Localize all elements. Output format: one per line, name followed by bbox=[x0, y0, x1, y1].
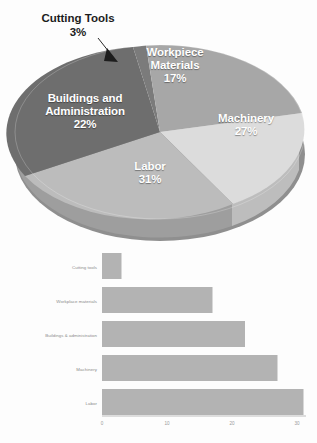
bar-chart-svg: Cutting tools Workplace materials Buildi… bbox=[0, 243, 317, 443]
bar-labor bbox=[102, 389, 304, 415]
pie-label-cutting-tools: Cutting Tools 3% bbox=[22, 12, 134, 39]
pie-label-cutting-tools-name: Cutting Tools bbox=[41, 12, 114, 24]
bar-label-cutting-tools: Cutting tools bbox=[72, 265, 98, 270]
bar-xtick-10: 10 bbox=[164, 421, 170, 426]
bar-machinery bbox=[102, 355, 278, 381]
bar-xtick-0: 0 bbox=[101, 421, 104, 426]
bar-workplace-materials bbox=[102, 287, 213, 313]
bar-label-labor: Labor bbox=[86, 401, 98, 406]
bar-buildings-administration bbox=[102, 321, 245, 347]
bar-cutting-tools bbox=[102, 253, 122, 279]
bar-label-buildings-administration: Buildings & administration bbox=[45, 333, 97, 338]
bar-xtick-20: 20 bbox=[229, 421, 235, 426]
bar-xtick-30: 30 bbox=[294, 421, 300, 426]
pie-label-cutting-tools-pct: 3% bbox=[22, 26, 134, 40]
bar-label-workplace-materials: Workplace materials bbox=[56, 299, 97, 304]
bar-label-machinery: Machinery bbox=[76, 367, 97, 372]
bar-chart-panel: Cutting tools Workplace materials Buildi… bbox=[0, 243, 317, 443]
pie-chart-panel: Cutting Tools 3% Workpiece Materials 17%… bbox=[0, 0, 317, 243]
figure-container: Cutting Tools 3% Workpiece Materials 17%… bbox=[0, 0, 317, 443]
